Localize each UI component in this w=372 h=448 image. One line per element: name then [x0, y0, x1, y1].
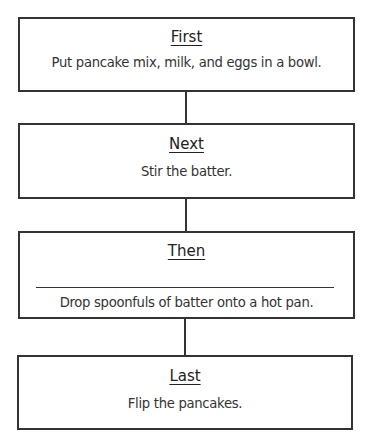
step-box-first: First Put pancake mix, milk, and eggs in… [18, 17, 355, 92]
step-box-then: Then Drop spoonfuls of batter onto a hot… [18, 231, 355, 319]
connector-line [185, 199, 187, 232]
step-title: Then [20, 242, 353, 260]
step-text: Put pancake mix, milk, and eggs in a bow… [20, 55, 353, 70]
step-text: Stir the batter. [20, 164, 353, 179]
step-text: Drop spoonfuls of batter onto a hot pan. [20, 295, 353, 310]
step-box-last: Last Flip the pancakes. [17, 355, 353, 430]
connector-line [184, 319, 186, 356]
step-title: First [20, 28, 353, 46]
step-title: Last [19, 367, 351, 385]
step-title: Next [20, 135, 353, 153]
blank-answer-line [36, 287, 334, 288]
step-text: Flip the pancakes. [19, 396, 351, 411]
connector-line [185, 92, 187, 124]
step-box-next: Next Stir the batter. [18, 123, 355, 199]
